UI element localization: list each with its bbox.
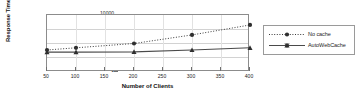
legend-sample-no-cache: [268, 30, 306, 39]
data-point: [132, 41, 136, 45]
plot-area: [46, 14, 249, 71]
figure-container: Response Time (ms) 10000 1000 100 10 1 5…: [0, 0, 364, 98]
legend-label-autowebcache: AutoWebCache: [306, 41, 346, 50]
data-point: [190, 33, 194, 37]
data-point: [248, 23, 252, 27]
legend-box: No cache AutoWebCache: [263, 25, 355, 55]
series-layer: [47, 15, 250, 72]
x-axis-title: Number of Clients: [46, 82, 249, 90]
legend-label-no-cache: No cache: [306, 30, 331, 39]
legend-item-no-cache: No cache: [268, 29, 350, 40]
data-point: [74, 46, 78, 50]
legend-item-autowebcache: AutoWebCache: [268, 40, 350, 51]
series-no-cache: [45, 23, 252, 52]
legend-sample-autowebcache: [268, 41, 306, 50]
series-line: [47, 25, 250, 50]
y-axis-title: Response Time (ms): [2, 0, 14, 42]
